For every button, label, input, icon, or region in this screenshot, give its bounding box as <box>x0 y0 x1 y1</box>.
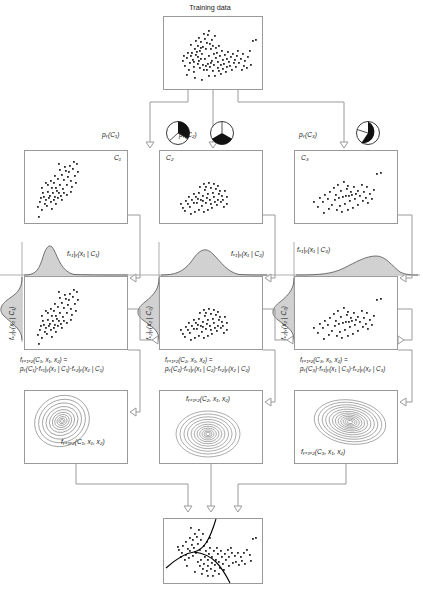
final-classification-panel <box>163 518 263 584</box>
prior-label-class-3: pᵧ(C₃) <box>299 131 317 138</box>
prior-label-class-1: pᵧ(C₁) <box>102 131 119 138</box>
training-data-panel <box>163 16 263 90</box>
prior-label-class-2: pᵧ(C₂) <box>179 131 197 138</box>
training-data-scatter <box>164 17 262 89</box>
connector-joint-to-final <box>0 462 423 522</box>
connector-class-to-density <box>0 140 423 370</box>
decision-boundary-plot <box>164 519 262 583</box>
connector-density-to-joint <box>0 340 423 470</box>
page-title: Training data <box>155 3 265 12</box>
